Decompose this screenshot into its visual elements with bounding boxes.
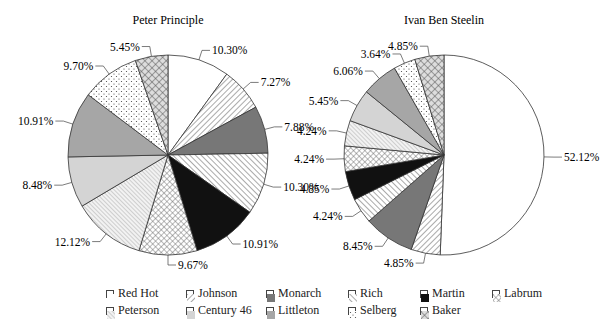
legend-item-johnson: Johnson	[186, 286, 266, 301]
slice-label: 8.45%	[343, 240, 373, 252]
legend-item-rich: Rich	[348, 286, 420, 301]
leader-line	[329, 131, 347, 133]
leader-line	[265, 127, 283, 130]
legend-label: Johnson	[198, 286, 237, 301]
legend-item-baker: Baker	[420, 303, 492, 318]
leader-line	[54, 182, 72, 185]
slice-red-hot	[440, 55, 544, 255]
slice-label: 9.67%	[178, 259, 208, 271]
leader-line	[199, 50, 210, 60]
legend-row-1: Red HotJohnsonMonarchRichMartinLabrum	[106, 285, 566, 302]
legend-swatch	[106, 307, 114, 315]
legend-swatch	[348, 290, 356, 298]
legend-label: Littleton	[278, 303, 319, 318]
legend-item-monarch: Monarch	[266, 286, 348, 301]
leader-line	[243, 82, 259, 89]
legend-swatch	[420, 290, 428, 298]
leader-line	[168, 255, 176, 265]
leader-line	[331, 186, 349, 189]
slice-label: 4.85%	[388, 40, 418, 52]
legend-item-century-46: Century 46	[186, 303, 266, 318]
legend-label: Century 46	[198, 303, 252, 318]
legend-label: Baker	[432, 303, 461, 318]
legend-swatch	[348, 307, 356, 315]
leader-line	[55, 121, 73, 124]
leader-line	[264, 184, 282, 187]
slice-label: 5.45%	[110, 41, 140, 53]
slice-label: 3.64%	[361, 48, 391, 60]
legend-item-selberg: Selberg	[348, 303, 420, 318]
chart-title-ivan-ben-steelin: Ivan Ben Steelin	[404, 13, 484, 27]
legend-swatch	[266, 307, 274, 315]
legend-item-littleton: Littleton	[266, 303, 348, 318]
slice-label: 8.48%	[22, 179, 52, 191]
leader-line	[375, 238, 389, 246]
legend-label: Selberg	[360, 303, 396, 318]
slice-label: 7.27%	[261, 76, 291, 88]
leader-line	[340, 101, 357, 106]
legend-swatch	[266, 290, 274, 298]
legend-swatch	[186, 290, 194, 298]
legend-swatch	[186, 307, 194, 315]
legend-swatch	[106, 290, 114, 298]
leader-line	[227, 236, 241, 244]
slice-label: 10.30%	[212, 44, 248, 56]
leader-line	[92, 234, 106, 242]
slice-label: 5.45%	[309, 95, 339, 107]
slice-label: 4.85%	[300, 183, 330, 195]
leader-line	[365, 71, 379, 79]
pie-peter-principle: 10.30%7.27%7.88%10.30%10.91%9.67%12.12%8…	[18, 41, 319, 271]
slice-label: 4.24%	[294, 153, 324, 165]
legend-item-peterson: Peterson	[106, 303, 186, 318]
leader-line	[392, 54, 404, 63]
slice-label: 9.70%	[64, 60, 94, 72]
leader-line	[420, 46, 429, 56]
slice-label: 10.91%	[243, 238, 279, 250]
leader-line	[95, 66, 109, 74]
slice-label: 6.06%	[333, 65, 363, 77]
leader-line	[345, 211, 361, 217]
legend-label: Red Hot	[118, 286, 158, 301]
slice-label: 12.12%	[55, 236, 91, 248]
legend-label: Peterson	[118, 303, 159, 318]
legend-label: Martin	[432, 286, 465, 301]
slice-label: 4.24%	[313, 210, 343, 222]
legend-item-red-hot: Red Hot	[106, 286, 186, 301]
legend-swatch	[420, 307, 428, 315]
slice-label: 4.85%	[384, 257, 414, 269]
chart-title-peter-principle: Peter Principle	[133, 13, 204, 27]
leader-line	[416, 253, 426, 263]
legend-label: Rich	[360, 286, 383, 301]
legend-item-labrum: Labrum	[492, 286, 562, 301]
legend-row-2: PetersonCentury 46LittletonSelbergBaker	[106, 302, 566, 319]
legend-swatch	[492, 290, 500, 298]
slice-label: 52.12%	[564, 151, 600, 163]
slice-label: 10.91%	[18, 115, 54, 127]
pie-ivan-ben-steelin: 52.12%4.85%8.45%4.24%4.85%4.24%4.24%5.45…	[294, 40, 599, 269]
legend-label: Labrum	[504, 286, 542, 301]
slice-label: 4.24%	[297, 125, 327, 137]
legend-label: Monarch	[278, 286, 321, 301]
legend: Red HotJohnsonMonarchRichMartinLabrum Pe…	[106, 285, 566, 319]
legend-item-martin: Martin	[420, 286, 492, 301]
leader-line	[142, 47, 152, 57]
